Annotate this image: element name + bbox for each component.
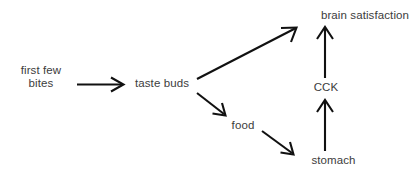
edge-stomach-to-cck	[317, 100, 333, 151]
edge-cck-to-brain	[317, 27, 333, 78]
edge-taste-buds-to-brain	[197, 28, 297, 80]
edge-taste-buds-to-food	[197, 93, 226, 116]
node-cck: CCK	[311, 81, 341, 94]
node-brain-satisfaction: brain satisfaction	[314, 9, 416, 22]
node-food: food	[229, 119, 257, 132]
node-label-line1: first few	[21, 64, 62, 76]
node-label-line2: bites	[29, 77, 54, 89]
diagram-canvas: first fewbites taste buds food brain sat…	[0, 0, 419, 172]
node-first-few-bites: first fewbites	[8, 64, 74, 90]
edge-bites-to-taste-buds	[77, 78, 124, 92]
node-stomach: stomach	[309, 154, 358, 167]
node-taste-buds: taste buds	[131, 77, 193, 90]
edge-food-to-stomach	[262, 131, 294, 155]
